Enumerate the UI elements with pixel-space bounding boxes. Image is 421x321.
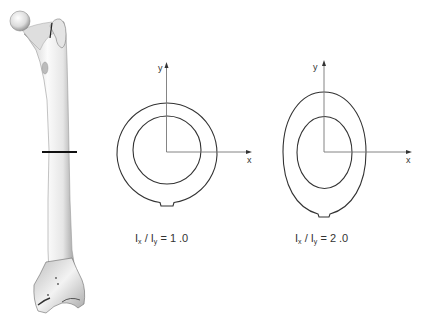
ratio-slash: / (145, 232, 148, 244)
ratio-value: 1 .0 (170, 232, 188, 244)
lesser-trochanter (42, 62, 48, 74)
outer-cortex-outline (283, 92, 366, 217)
subscript-y: y (154, 238, 158, 245)
inner-medullary-outline (133, 116, 201, 184)
y-axis-label: y (158, 63, 163, 73)
x-axis-arrow-icon (246, 150, 252, 154)
subscript-y: y (314, 238, 318, 245)
ratio-value: 2 .0 (330, 232, 348, 244)
femur-illustration (10, 11, 85, 313)
cross-section-elliptical: y x (283, 60, 412, 217)
diagram-canvas: y x y x (0, 0, 421, 321)
subscript-x: x (138, 238, 142, 245)
femur-condyles (34, 258, 85, 313)
x-axis-label: x (406, 155, 411, 165)
subscript-x: x (298, 238, 302, 245)
y-axis-arrow-icon (322, 60, 326, 66)
x-axis-arrow-icon (406, 150, 412, 154)
ratio-slash: / (305, 232, 308, 244)
outer-cortex-outline (117, 103, 217, 206)
equals-sign: = (320, 232, 326, 244)
y-axis-arrow-icon (165, 62, 169, 68)
femur-shaft (24, 20, 76, 300)
caption-elliptical-ratio: Ix / Iy = 2 .0 (295, 232, 348, 245)
inner-medullary-outline (297, 117, 352, 189)
femoral-head (10, 11, 30, 31)
caption-circular-ratio: Ix / Iy = 1 .0 (135, 232, 188, 245)
equals-sign: = (160, 232, 166, 244)
y-axis-label: y (313, 62, 318, 72)
x-axis-label: x (247, 155, 252, 165)
cross-section-circular: y x (117, 62, 252, 206)
